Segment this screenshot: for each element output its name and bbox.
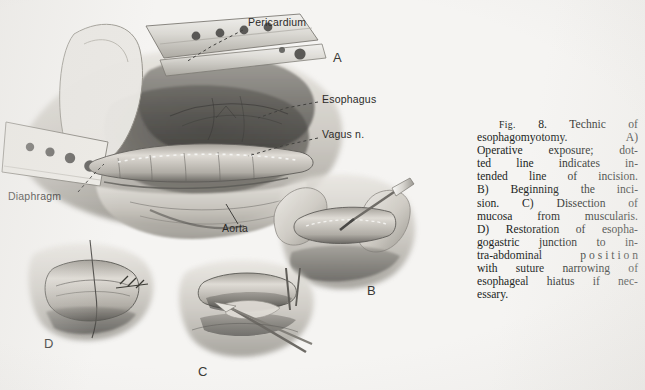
- figure-caption: Fig. 8. Technic of esophagomyotomy. A) O…: [477, 118, 638, 301]
- caption-line-13: esophageal hiatus if nec-: [477, 275, 638, 288]
- label-esophagus: Esophagus: [322, 93, 376, 105]
- caption-line-8: mucosa from muscularis.: [477, 210, 638, 223]
- caption-word: dot-: [619, 144, 638, 157]
- caption-word: Operative: [477, 144, 523, 157]
- caption-word: gogastric: [477, 236, 520, 249]
- surgical-illustration-svg: [0, 0, 452, 390]
- caption-word: A): [626, 131, 638, 144]
- caption-fig-label: Fig.: [477, 118, 516, 131]
- caption-word: esophagomyotomy.: [477, 131, 567, 144]
- caption-word: junction: [539, 236, 577, 249]
- caption-word: esopha-: [602, 223, 638, 236]
- caption-word: mucosa: [477, 210, 512, 223]
- caption-word: from: [537, 210, 560, 223]
- caption-line-5: tended line of incision.: [477, 170, 638, 183]
- caption-line-9: D) Restoration of esopha-: [477, 223, 638, 236]
- caption-word: of: [568, 170, 578, 183]
- caption-word: if: [593, 275, 600, 288]
- label-vagus-nerve: Vagus n.: [322, 128, 364, 140]
- caption-word: tra-abdominal: [477, 249, 542, 262]
- caption-word: inci-: [617, 183, 638, 196]
- caption-line-1: Fig. 8. Technic of: [477, 118, 638, 131]
- caption-word: B): [477, 183, 489, 196]
- label-diaphragm: Diaphragm: [8, 190, 61, 202]
- caption-word: D): [477, 223, 489, 236]
- panel-letter-c: C: [198, 364, 208, 379]
- caption-word: Beginning: [510, 183, 558, 196]
- caption-word: Technic: [569, 118, 606, 131]
- caption-word: of: [628, 262, 638, 275]
- caption-word: C): [522, 197, 534, 210]
- caption-word: indicates: [559, 157, 600, 170]
- label-aorta: Aorta: [222, 222, 248, 234]
- caption-line-3: Operative exposure; dot-: [477, 144, 638, 157]
- caption-word: to: [597, 236, 606, 249]
- figure-illustration: Pericardium Esophagus Vagus n. Diaphragm…: [0, 0, 452, 390]
- caption-line-12: with suture narrowing of: [477, 262, 638, 275]
- caption-word: muscularis.: [585, 210, 638, 223]
- caption-word: nec-: [618, 275, 638, 288]
- caption-line-6: B) Beginning the inci-: [477, 183, 638, 196]
- caption-word: esophageal: [477, 275, 529, 288]
- caption-word: with: [477, 262, 498, 275]
- caption-word: exposure;: [548, 144, 593, 157]
- caption-word: line: [529, 170, 546, 183]
- caption-word: ted: [477, 157, 491, 170]
- caption-word: the: [581, 183, 595, 196]
- caption-word: of: [628, 197, 638, 210]
- caption-word: sion.: [477, 197, 499, 210]
- caption-word: essary.: [477, 288, 508, 301]
- caption-word: hiatus: [547, 275, 575, 288]
- panel-letter-b: B: [367, 283, 376, 298]
- caption-word: incision.: [598, 170, 638, 183]
- caption-word: in-: [625, 236, 638, 249]
- page-root: Pericardium Esophagus Vagus n. Diaphragm…: [0, 0, 645, 390]
- caption-line-11: tra-abdominal p o s i t i o n: [477, 249, 638, 262]
- caption-word: Restoration: [506, 223, 559, 236]
- label-pericardium: Pericardium: [248, 16, 306, 28]
- caption-line-14: essary.: [477, 288, 638, 301]
- caption-line-10: gogastric junction to in-: [477, 236, 638, 249]
- caption-word: of: [576, 223, 586, 236]
- caption-line-4: ted line indicates in-: [477, 157, 638, 170]
- panel-letter-d: D: [44, 336, 54, 351]
- caption-word: p o s i t i o n: [580, 249, 638, 262]
- caption-line-7: sion. C) Dissection of: [477, 197, 638, 210]
- caption-fig-number: 8.: [538, 118, 547, 131]
- caption-word: Dissection: [557, 197, 606, 210]
- caption-word: narrowing: [562, 262, 610, 275]
- panel-letter-a: A: [333, 50, 342, 65]
- caption-line-2: esophagomyotomy. A): [477, 131, 638, 144]
- caption-word: of: [628, 118, 638, 131]
- caption-word: tended: [477, 170, 508, 183]
- caption-word: in-: [625, 157, 638, 170]
- caption-word: suture: [516, 262, 544, 275]
- caption-word: line: [516, 157, 533, 170]
